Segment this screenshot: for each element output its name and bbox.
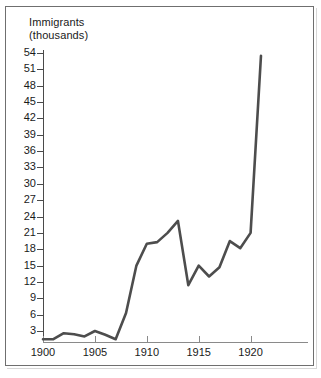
- chart-figure: Immigrants (thousands) 36912151821242730…: [0, 0, 321, 378]
- series-layer: [0, 0, 321, 378]
- immigrants-line: [43, 56, 261, 339]
